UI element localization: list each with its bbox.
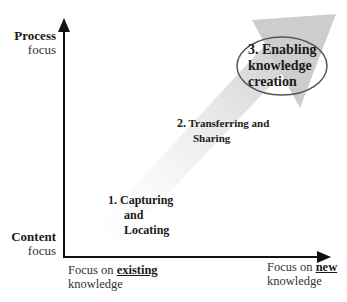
stage-1-label: 1. Capturing and Locating xyxy=(108,193,173,238)
stage-1-line-1: Capturing xyxy=(120,193,173,207)
y-axis-arrowhead xyxy=(58,18,70,32)
stage-3-line-1: Enabling xyxy=(262,42,316,57)
y-axis-bottom-label: Content focus xyxy=(11,230,56,258)
stage-3-label: 3. Enabling knowledge creation xyxy=(248,42,316,90)
new-prefix: Focus on xyxy=(267,260,316,274)
stage-1-number: 1. xyxy=(108,193,117,207)
existing-emphasis: existing xyxy=(117,263,158,277)
y-axis-top-label: Process focus xyxy=(14,29,56,57)
stage-1-line-3: Locating xyxy=(108,223,173,238)
content-subtitle: focus xyxy=(11,244,56,258)
stage-2-number: 2. xyxy=(177,116,186,130)
process-subtitle: focus xyxy=(14,43,56,57)
existing-suffix: knowledge xyxy=(68,277,158,291)
existing-prefix: Focus on xyxy=(68,263,117,277)
x-axis-right-label: Focus on new knowledge xyxy=(267,260,337,288)
stage-2-line-1: Transferring and xyxy=(189,117,270,129)
x-axis-left-label: Focus on existing knowledge xyxy=(68,263,158,291)
stage-2-label: 2. Transferring and Sharing xyxy=(177,116,269,146)
content-title: Content xyxy=(11,230,56,244)
stage-2-line-2: Sharing xyxy=(177,131,269,146)
stage-1-line-2: and xyxy=(108,208,173,223)
new-emphasis: new xyxy=(316,260,338,274)
new-suffix: knowledge xyxy=(267,274,337,288)
process-title: Process xyxy=(14,29,56,43)
stage-3-line-2: knowledge xyxy=(248,58,316,74)
stage-3-number: 3. xyxy=(248,42,259,57)
stage-3-line-3: creation xyxy=(248,74,316,90)
